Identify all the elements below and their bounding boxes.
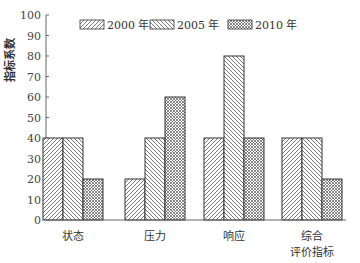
- y-tick-label: 30: [27, 153, 41, 166]
- y-tick-label: 0: [34, 214, 41, 227]
- legend-swatch: [150, 20, 174, 29]
- legend-item: 2005 年: [150, 18, 220, 32]
- x-category-label: 综合: [301, 229, 323, 243]
- x-category-label: 评价指标: [290, 245, 334, 259]
- y-tick-label: 100: [20, 9, 41, 22]
- y-tick-label: 50: [27, 112, 41, 125]
- bar-chart: 0102030405060708090100 指标系数 状态压力响应综合评价指标…: [0, 0, 360, 263]
- x-category-label: 压力: [144, 230, 166, 243]
- bar: [224, 56, 244, 220]
- x-axis-labels: 状态压力响应综合评价指标: [62, 229, 334, 259]
- x-category-label: 状态: [62, 229, 84, 243]
- y-tick-label: 70: [27, 71, 41, 84]
- y-tick-label: 40: [27, 132, 41, 145]
- x-category-label: 响应: [223, 229, 245, 243]
- legend-item: 2010 年: [228, 18, 298, 32]
- legend-swatch: [228, 20, 252, 29]
- bar: [204, 138, 224, 220]
- y-tick-label: 10: [27, 194, 41, 207]
- bar: [165, 97, 185, 220]
- bar: [63, 138, 83, 220]
- bar: [302, 138, 322, 220]
- bar: [125, 179, 145, 220]
- y-axis-title: 指标系数: [3, 37, 17, 82]
- legend-label: 2010 年: [255, 18, 298, 32]
- y-axis-label: 指标系数: [3, 37, 17, 82]
- legend-label: 2000 年: [107, 18, 150, 32]
- bar: [244, 138, 264, 220]
- bar: [83, 179, 103, 220]
- y-tick-label: 80: [27, 50, 41, 63]
- bar: [322, 179, 342, 220]
- y-tick-label: 90: [27, 30, 41, 43]
- legend: 2000 年2005 年2010 年: [80, 18, 298, 32]
- legend-item: 2000 年: [80, 18, 150, 32]
- bar: [145, 138, 165, 220]
- legend-swatch: [80, 20, 104, 29]
- bar: [43, 138, 63, 220]
- legend-label: 2005 年: [177, 18, 220, 32]
- y-tick-label: 60: [27, 91, 41, 104]
- bars: [43, 56, 342, 220]
- y-tick-label: 20: [27, 173, 41, 186]
- bar: [282, 138, 302, 220]
